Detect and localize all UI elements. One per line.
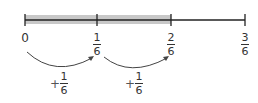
tick-label-3: 3 6 xyxy=(235,32,255,57)
jump-arc-1 xyxy=(27,52,92,67)
denominator: 6 xyxy=(87,46,107,57)
numerator: 3 xyxy=(235,32,255,43)
tick-label-0: 0 xyxy=(15,31,35,45)
jump-label-2: 1 6 xyxy=(129,71,149,96)
tick-label-2: 2 6 xyxy=(161,32,181,57)
numerator: 1 xyxy=(129,71,149,82)
denominator: 6 xyxy=(161,46,181,57)
numerator: 2 xyxy=(161,32,181,43)
jump-arc-2 xyxy=(104,57,167,68)
numerator: 1 xyxy=(87,32,107,43)
denominator: 6 xyxy=(54,85,74,96)
tick-label-1: 1 6 xyxy=(87,32,107,57)
denominator: 6 xyxy=(235,46,255,57)
jump-label-1: 1 6 xyxy=(54,71,74,96)
numerator: 1 xyxy=(54,71,74,82)
denominator: 6 xyxy=(129,85,149,96)
